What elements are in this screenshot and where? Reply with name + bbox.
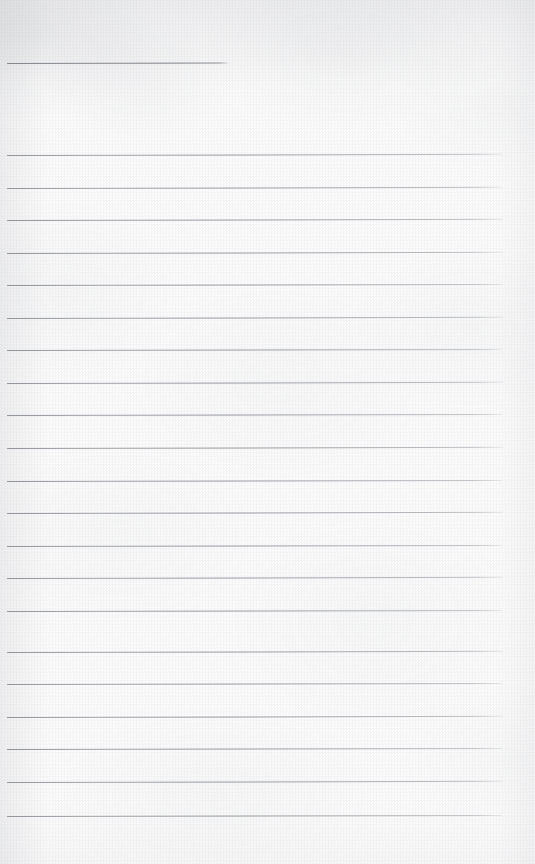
ruled-line-20 <box>7 781 503 783</box>
ruled-line-9 <box>7 414 502 416</box>
header-rule <box>7 63 228 64</box>
ruled-line-15 <box>7 610 502 612</box>
ruled-line-19 <box>7 748 502 750</box>
ruled-line-1 <box>7 154 502 156</box>
ruled-line-17 <box>7 683 502 685</box>
ruled-line-6 <box>7 317 503 319</box>
ruled-line-12 <box>7 512 503 514</box>
ruled-line-14 <box>7 577 503 579</box>
ruled-line-2 <box>7 187 502 189</box>
ruled-line-4 <box>7 252 502 254</box>
ruled-line-13 <box>7 545 502 547</box>
scanned-page <box>0 0 535 864</box>
ruled-line-8 <box>7 382 503 384</box>
ruled-line-3 <box>7 219 503 221</box>
ruled-lines-layer <box>0 0 535 864</box>
ruled-line-16 <box>7 651 503 653</box>
ruled-line-11 <box>7 480 502 482</box>
ruled-line-7 <box>7 349 502 351</box>
ruled-line-18 <box>7 716 503 718</box>
ruled-line-21 <box>7 815 502 817</box>
ruled-line-5 <box>7 284 502 286</box>
ruled-line-10 <box>7 447 503 449</box>
